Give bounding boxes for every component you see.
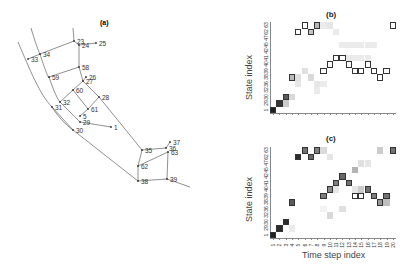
y-tick-label: 63 — [263, 145, 269, 155]
node-label: 29 — [83, 119, 91, 126]
node-dot — [110, 126, 112, 128]
node-dot — [82, 80, 84, 82]
x-tick-mark — [393, 113, 394, 115]
heat-cell — [314, 87, 320, 94]
x-tick-mark — [342, 113, 343, 115]
node-dot — [72, 89, 74, 91]
y-tick-label: 63 — [263, 20, 269, 30]
node-dot — [167, 151, 169, 153]
x-axis-line — [270, 113, 396, 114]
x-tick-label: 15 — [358, 240, 364, 250]
node-dot — [78, 66, 80, 68]
path-cell — [283, 94, 289, 101]
node-dot — [166, 178, 168, 180]
y-axis-line — [270, 147, 271, 238]
x-tick-mark — [330, 113, 331, 115]
node-label: 33 — [31, 56, 39, 63]
x-tick-label: 13 — [346, 240, 352, 250]
x-tick-mark — [286, 113, 287, 115]
path-cell — [295, 29, 301, 36]
x-tick-mark — [311, 113, 312, 115]
node-label: 58 — [82, 64, 90, 71]
x-tick-mark — [279, 113, 280, 115]
heat-cell — [327, 212, 333, 219]
network-diagram: 2324253433585926276028323161529130353736… — [0, 0, 220, 264]
path-cell — [314, 22, 320, 29]
x-tick-label: 12 — [339, 240, 345, 250]
heat-cell — [320, 206, 326, 213]
panel-c-title: (c) — [326, 134, 336, 143]
node-label: 61 — [91, 106, 99, 113]
path-cell — [320, 68, 326, 75]
node-label: 62 — [141, 163, 149, 170]
path-cell — [383, 193, 389, 200]
node-dot — [78, 44, 80, 46]
heatmap-b: 129303236383940414245476263 — [270, 22, 396, 113]
path-cell — [270, 107, 276, 114]
node-label: 35 — [145, 147, 153, 154]
panel-a-label: (a) — [100, 19, 109, 27]
path-cell — [377, 74, 383, 81]
x-tick-label: 10 — [327, 240, 333, 250]
node-label: 25 — [99, 40, 107, 47]
node-label: 30 — [76, 127, 84, 134]
node-dot — [48, 76, 50, 78]
node-label: 63 — [171, 149, 179, 156]
x-tick-label: 2 — [276, 240, 282, 250]
path-cell — [327, 186, 333, 193]
path-cell — [289, 199, 295, 206]
node-dot — [27, 58, 29, 60]
x-tick-label: 5 — [295, 240, 301, 250]
path-cell — [390, 147, 396, 154]
node-label: 28 — [102, 94, 110, 101]
node-label: 32 — [63, 99, 71, 106]
path-cell — [276, 225, 282, 232]
heat-cell — [371, 42, 377, 49]
heat-cell — [377, 147, 383, 154]
road-line — [83, 81, 142, 150]
path-cell — [358, 193, 364, 200]
node-dot — [72, 129, 74, 131]
x-tick-label: 16 — [365, 240, 371, 250]
x-tick-label: 8 — [314, 240, 320, 250]
x-tick-mark — [380, 113, 381, 115]
heat-cell — [295, 74, 301, 81]
node-dot — [59, 101, 61, 103]
path-cell — [320, 193, 326, 200]
heat-cell — [352, 167, 358, 174]
node-dot — [87, 108, 89, 110]
heat-cell — [283, 100, 289, 107]
path-cell — [283, 219, 289, 226]
path-cell — [327, 61, 333, 68]
node-label: 1 — [114, 124, 118, 131]
heat-cell — [289, 225, 295, 232]
path-cell — [270, 232, 276, 239]
x-tick-mark — [336, 113, 337, 115]
panel-b-title: (b) — [326, 10, 336, 19]
heat-cell — [295, 81, 301, 88]
x-tick-label: 3 — [283, 240, 289, 250]
heat-cell — [289, 94, 295, 101]
x-tick-label: 19 — [384, 240, 390, 250]
x-axis-line — [270, 238, 396, 239]
x-tick-mark — [273, 113, 274, 115]
x-tick-label: 18 — [377, 240, 383, 250]
heat-cell — [333, 186, 339, 193]
path-cell — [333, 180, 339, 187]
x-tick-mark — [305, 113, 306, 115]
node-dot — [137, 180, 139, 182]
path-cell — [346, 180, 352, 187]
x-tick-label: 20 — [390, 240, 396, 250]
path-cell — [289, 74, 295, 81]
x-tick-mark — [324, 113, 325, 115]
x-tick-label: 6 — [302, 240, 308, 250]
x-tick-mark — [292, 113, 293, 115]
path-cell — [383, 68, 389, 75]
heatmap-c: 1293032363839404142454762631234567891011… — [270, 147, 396, 238]
x-tick-mark — [368, 113, 369, 115]
node-dot — [98, 96, 100, 98]
node-dot — [79, 121, 81, 123]
x-tick-mark — [298, 113, 299, 115]
node-dot — [51, 106, 53, 108]
panel-c-ylabel: State index — [244, 177, 254, 222]
